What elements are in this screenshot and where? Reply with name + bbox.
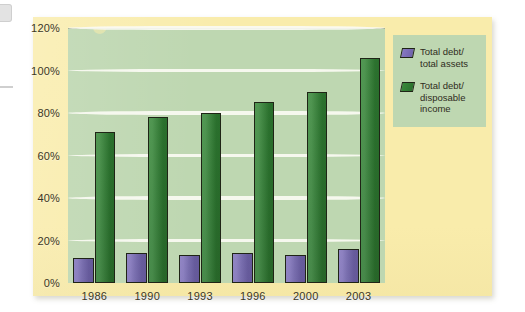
bar-total-debt-disposable-income-1990[interactable] — [148, 117, 168, 283]
legend-swatch-purple — [400, 48, 415, 58]
legend-label: Total debt/ disposable income — [420, 80, 479, 115]
scanned-page: 0%20%40%60%80%100%120% 19861990199319962… — [0, 0, 525, 312]
bar-total-debt-disposable-income-1986[interactable] — [95, 132, 115, 283]
y-axis-tick-label: 40% — [37, 192, 60, 204]
bar-total-debt-total-assets-1996[interactable] — [232, 253, 253, 283]
bar-total-debt-total-assets-1990[interactable] — [126, 253, 147, 283]
plot-area: 0%20%40%60%80%100%120% 19861990199319962… — [68, 28, 385, 283]
legend-swatch-green — [400, 82, 415, 92]
x-axis-tick-label-1996: 1996 — [240, 290, 266, 302]
y-axis-tick-label: 60% — [37, 150, 60, 162]
scan-edge-artifact-middle — [0, 86, 13, 88]
bar-total-debt-disposable-income-2003[interactable] — [360, 58, 380, 283]
legend-label: Total debt/ total assets — [420, 46, 468, 69]
x-axis-tick-label-1993: 1993 — [187, 290, 213, 302]
legend-item-total-debt-disposable-income[interactable]: Total debt/ disposable income — [401, 80, 479, 115]
y-axis-tick-label: 20% — [37, 235, 60, 247]
bar-total-debt-disposable-income-1993[interactable] — [201, 113, 221, 283]
bar-group-1993 — [179, 113, 221, 283]
gridline — [68, 26, 385, 30]
bar-total-debt-total-assets-2003[interactable] — [338, 249, 359, 283]
bar-total-debt-disposable-income-2000[interactable] — [307, 92, 327, 283]
bar-group-1986 — [73, 132, 115, 283]
y-axis-tick-label: 120% — [31, 22, 60, 34]
x-axis-tick-label-1990: 1990 — [134, 290, 160, 302]
bar-total-debt-total-assets-2000[interactable] — [285, 255, 306, 283]
chart-legend: Total debt/ total assetsTotal debt/ disp… — [393, 35, 486, 127]
x-axis-tick-label-2003: 2003 — [346, 290, 372, 302]
x-axis-tick-label-2000: 2000 — [293, 290, 319, 302]
scan-edge-artifact-top — [0, 4, 12, 22]
bar-group-2003 — [338, 58, 380, 283]
y-axis-tick-label: 0% — [44, 277, 60, 289]
bar-total-debt-total-assets-1986[interactable] — [73, 258, 94, 284]
chart-card: 0%20%40%60%80%100%120% 19861990199319962… — [33, 17, 492, 296]
x-axis-tick-label-1986: 1986 — [82, 290, 108, 302]
bar-total-debt-total-assets-1993[interactable] — [179, 255, 200, 283]
y-axis-tick-label: 100% — [31, 65, 60, 77]
bar-total-debt-disposable-income-1996[interactable] — [254, 102, 274, 283]
y-axis-tick-label: 80% — [37, 107, 60, 119]
legend-item-total-debt-total-assets[interactable]: Total debt/ total assets — [401, 46, 479, 69]
bar-group-1996 — [232, 102, 274, 283]
bar-group-2000 — [285, 92, 327, 283]
bar-group-1990 — [126, 117, 168, 283]
